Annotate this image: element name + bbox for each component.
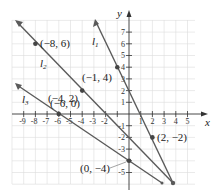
- svg-text:-5: -5: [118, 168, 125, 177]
- point-neg1-4: [115, 65, 120, 70]
- svg-text:3: 3: [162, 117, 166, 126]
- leader-line: [110, 162, 126, 168]
- svg-text:1: 1: [121, 98, 125, 107]
- label-l3: l3: [22, 93, 29, 107]
- svg-text:7: 7: [121, 28, 125, 37]
- svg-text:-9: -9: [19, 117, 26, 126]
- svg-text:2: 2: [150, 117, 154, 126]
- svg-text:-3: -3: [89, 117, 96, 126]
- svg-text:-2: -2: [118, 133, 125, 142]
- point-neg6-0: [57, 112, 62, 117]
- x-tick-labels: -9 -8 -7 -6 -5 -4 -3 -2 1 2 3 4 5: [19, 117, 189, 126]
- l3-arrow-icon: [15, 83, 22, 90]
- endpoints: [161, 181, 176, 185]
- svg-text:6: 6: [121, 40, 125, 49]
- y-axis-arrow-icon: [127, 10, 132, 17]
- x-axis-label: x: [204, 116, 210, 128]
- svg-text:-3: -3: [118, 145, 125, 154]
- point-neg4-2: [80, 88, 85, 93]
- svg-text:-8: -8: [31, 117, 38, 126]
- svg-text:-4: -4: [78, 117, 85, 126]
- point-neg8-6: [33, 42, 38, 47]
- svg-text:(2, −2): (2, −2): [157, 131, 187, 144]
- svg-text:-7: -7: [43, 117, 50, 126]
- point-0-neg4: [127, 159, 132, 164]
- y-axis-label: y: [116, 7, 122, 19]
- svg-text:(−1, 4): (−1, 4): [82, 71, 112, 84]
- label-l2: l2: [40, 57, 47, 71]
- coordinate-plane: x y -9 -8 -7 -6 -5 -4 -3 -2 1 2 3 4 5: [0, 0, 219, 196]
- svg-text:4: 4: [121, 63, 125, 72]
- svg-text:-6: -6: [54, 117, 61, 126]
- point-2-neg2: [150, 135, 155, 140]
- label-l1: l1: [92, 35, 99, 49]
- svg-text:2: 2: [121, 87, 125, 96]
- svg-text:5: 5: [121, 51, 125, 60]
- svg-text:(−8, 6): (−8, 6): [40, 37, 70, 50]
- svg-text:5: 5: [186, 117, 190, 126]
- svg-text:(−6, 0): (−6, 0): [50, 97, 80, 110]
- svg-text:-2: -2: [101, 117, 108, 126]
- svg-text:(0, −4): (0, −4): [80, 162, 110, 175]
- svg-text:4: 4: [174, 117, 178, 126]
